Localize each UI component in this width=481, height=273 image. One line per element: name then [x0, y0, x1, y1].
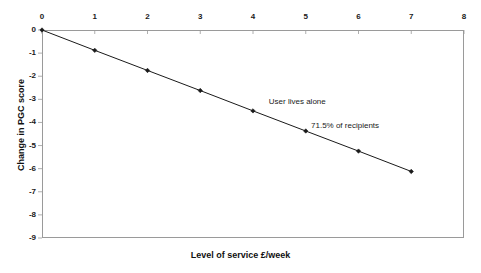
- data-point: [409, 169, 413, 173]
- y-axis-title: Change in PGC score: [16, 50, 26, 200]
- y-tick-label: -9: [18, 233, 36, 243]
- data-point: [251, 109, 255, 113]
- data-point: [40, 28, 44, 32]
- x-tick-label: 8: [454, 12, 474, 22]
- x-tick-label: 0: [32, 12, 52, 22]
- x-tick-label: 3: [190, 12, 210, 22]
- data-point: [93, 48, 97, 52]
- y-tick-label: 0: [18, 25, 36, 35]
- annotation-share-label: 71.5% of recipients: [311, 121, 379, 131]
- x-tick-label: 2: [138, 12, 158, 22]
- y-tick-label: -8: [18, 210, 36, 220]
- x-tick-label: 6: [349, 12, 369, 22]
- x-tick-label: 7: [401, 12, 421, 22]
- annotation-series-label: User lives alone: [269, 97, 326, 107]
- chart-container: 012345678 0-1-2-3-4-5-6-7-8-9 User lives…: [0, 0, 481, 273]
- data-point: [304, 129, 308, 133]
- data-point: [145, 68, 149, 72]
- x-axis-title: Level of service £/week: [0, 250, 481, 260]
- x-tick-label: 4: [243, 12, 263, 22]
- x-tick-label: 5: [296, 12, 316, 22]
- x-tick-marks: [42, 30, 464, 34]
- series-line-user-lives-alone: [42, 30, 411, 171]
- y-tick-marks: [38, 30, 42, 238]
- x-tick-label: 1: [85, 12, 105, 22]
- chart-canvas: [0, 0, 481, 273]
- data-point: [356, 149, 360, 153]
- data-point: [198, 88, 202, 92]
